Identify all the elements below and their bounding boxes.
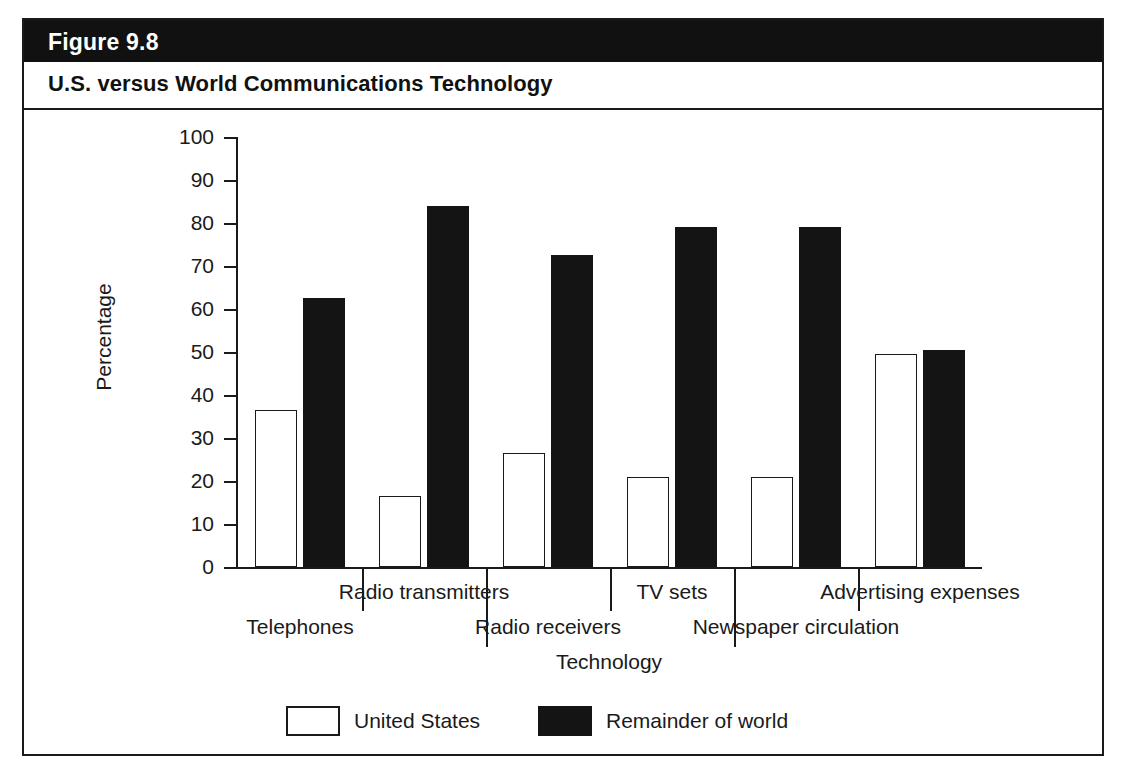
y-axis-tick-label: 70	[168, 255, 214, 276]
bar	[923, 350, 965, 567]
bar	[627, 477, 669, 567]
y-axis-tick-label: 100	[168, 126, 214, 147]
bar	[379, 496, 421, 567]
y-axis-tick	[224, 567, 236, 569]
bar	[427, 206, 469, 567]
category-label: TV sets	[636, 580, 707, 604]
category-label: Advertising expenses	[820, 580, 1020, 604]
y-axis-tick	[224, 309, 236, 311]
y-axis-tick	[224, 180, 236, 182]
category-separator	[610, 569, 612, 611]
figure-number: Figure 9.8	[48, 29, 159, 56]
chart-legend: United StatesRemainder of world	[238, 706, 982, 746]
y-axis-tick	[224, 395, 236, 397]
bar	[675, 227, 717, 567]
y-axis-tick	[224, 524, 236, 526]
bar	[255, 410, 297, 567]
y-axis-tick-label: 30	[168, 427, 214, 448]
legend-label: United States	[354, 709, 480, 733]
bar	[751, 477, 793, 567]
bar	[503, 453, 545, 567]
y-axis-tick-label: 80	[168, 212, 214, 233]
legend-swatch-remainder-of-world	[538, 706, 592, 736]
y-axis-tick	[224, 438, 236, 440]
chart-plot-region: Percentage 0102030405060708090100 Teleph…	[24, 110, 1102, 756]
y-axis-tick	[224, 266, 236, 268]
category-label: Radio transmitters	[339, 580, 509, 604]
legend-item: United States	[286, 706, 480, 736]
y-axis-label: Percentage	[92, 247, 116, 427]
figure-subtitle-bar: U.S. versus World Communications Technol…	[24, 62, 1102, 110]
y-axis-tick-label: 0	[168, 556, 214, 577]
y-axis-tick	[224, 137, 236, 139]
y-axis-tick-label: 40	[168, 384, 214, 405]
y-axis-tick-label: 10	[168, 513, 214, 534]
bar	[875, 354, 917, 567]
y-axis-tick-label: 60	[168, 298, 214, 319]
x-axis-line	[236, 567, 982, 569]
bar	[551, 255, 593, 567]
figure-title: U.S. versus World Communications Technol…	[48, 71, 553, 97]
y-axis-tick	[224, 223, 236, 225]
bar	[799, 227, 841, 567]
bars-area	[238, 137, 982, 567]
y-axis-tick-label: 50	[168, 341, 214, 362]
figure-header-bar: Figure 9.8	[24, 20, 1102, 62]
category-label: Newspaper circulation	[693, 615, 900, 639]
bar	[303, 298, 345, 567]
y-axis-tick-label: 90	[168, 169, 214, 190]
legend-item: Remainder of world	[538, 706, 788, 736]
y-axis-tick	[224, 481, 236, 483]
x-axis-label: Technology	[236, 650, 982, 674]
category-label: Radio receivers	[475, 615, 621, 639]
legend-swatch-united-states	[286, 706, 340, 736]
y-axis-tick	[224, 352, 236, 354]
category-label: Telephones	[246, 615, 353, 639]
y-axis-tick-label: 20	[168, 470, 214, 491]
legend-label: Remainder of world	[606, 709, 788, 733]
figure-frame: Figure 9.8 U.S. versus World Communicati…	[22, 18, 1104, 756]
